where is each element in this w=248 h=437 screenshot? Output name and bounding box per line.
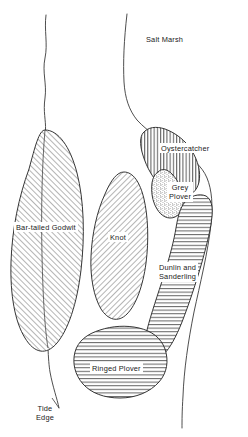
label-oystercatcher: Oystercatcher [159,143,211,153]
label-grey-plover: Grey Plover [167,182,193,202]
label-salt-marsh: Salt Marsh [146,35,183,44]
label-grey-plover-line2: Plover [169,192,191,201]
label-tide-edge-line2: Edge [36,413,54,422]
wader-distribution-map: Salt Marsh Oystercatcher Grey Plover Dun… [0,0,248,437]
label-tide-edge-line1: Tide [36,404,54,413]
label-tide-edge: Tide Edge [36,404,54,423]
label-ringed-plover: Ringed Plover [90,363,143,373]
label-dunlin-sanderling: Dunlin and Sanderling [157,262,198,282]
label-bar-tailed-godwit: Bar-tailed Godwit [14,222,78,232]
label-dunlin-line2: Sanderling [159,272,196,281]
label-dunlin-line1: Dunlin and [159,263,196,272]
label-grey-plover-line1: Grey [169,183,191,192]
label-knot: Knot [108,232,128,242]
